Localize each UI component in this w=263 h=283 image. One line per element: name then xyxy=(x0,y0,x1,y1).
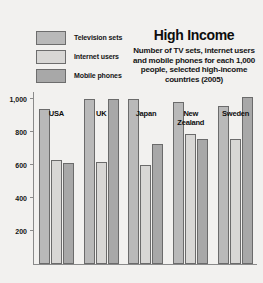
plot-area: 1,000800600400200USAUKJapanNew ZealandSw… xyxy=(33,92,257,265)
bar xyxy=(96,162,107,264)
bar xyxy=(230,139,241,264)
chart-subtitle: Number of TV sets, internet users and mo… xyxy=(131,46,257,84)
bar-group: USA xyxy=(34,92,79,264)
bar xyxy=(140,165,151,264)
x-axis-group-label: USA xyxy=(34,110,79,119)
chart-title: High Income xyxy=(131,28,257,43)
legend-label-internet-users: Internet users xyxy=(74,53,119,60)
bar-group: Sweden xyxy=(213,92,258,264)
x-axis-group-label: New Zealand xyxy=(168,110,213,127)
legend-swatch-television-sets xyxy=(36,31,66,45)
legend-item-television-sets: Television sets xyxy=(36,29,146,46)
y-axis-tick-label: 400 xyxy=(1,195,27,202)
legend-label-mobile-phones: Mobile phones xyxy=(74,72,122,79)
bar xyxy=(84,99,95,264)
bar-group: New Zealand xyxy=(168,92,213,264)
y-axis-tick-label: 200 xyxy=(1,228,27,235)
bar xyxy=(242,97,253,264)
bar xyxy=(51,160,62,264)
legend-label-television-sets: Television sets xyxy=(74,34,122,41)
legend-swatch-internet-users xyxy=(36,50,66,64)
chart-legend: Television sets Internet users Mobile ph… xyxy=(36,29,146,86)
x-axis-group-label: Sweden xyxy=(213,110,258,119)
bar xyxy=(152,144,163,264)
x-axis-group-label: UK xyxy=(79,110,124,119)
x-axis-group-label: Japan xyxy=(124,110,169,119)
y-axis-tick-label: 1,000 xyxy=(1,96,27,103)
plot-inner: 1,000800600400200USAUKJapanNew ZealandSw… xyxy=(34,92,257,264)
legend-swatch-mobile-phones xyxy=(36,69,66,83)
chart-title-block: High Income Number of TV sets, internet … xyxy=(131,28,257,84)
chart-figure: Television sets Internet users Mobile ph… xyxy=(0,0,263,283)
bar xyxy=(197,139,208,264)
bar-group: Japan xyxy=(124,92,169,264)
y-axis-tick-label: 600 xyxy=(1,162,27,169)
bar xyxy=(63,163,74,264)
bar xyxy=(39,109,50,264)
bar xyxy=(185,134,196,264)
bar xyxy=(218,106,229,264)
bar-group: UK xyxy=(79,92,124,264)
bar xyxy=(128,99,139,264)
legend-item-internet-users: Internet users xyxy=(36,48,146,65)
bar xyxy=(108,99,119,264)
legend-item-mobile-phones: Mobile phones xyxy=(36,67,146,84)
y-axis-tick-label: 800 xyxy=(1,129,27,136)
